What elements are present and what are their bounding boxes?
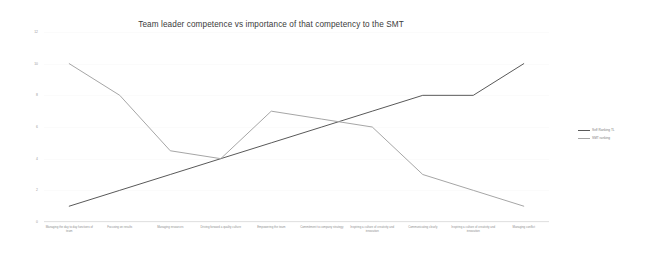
line-chart: Team leader competence vs importance of … <box>0 0 662 257</box>
x-axis-tick-label: Inspiring a culture of creativity and in… <box>347 226 398 252</box>
plot-area: 024681012 <box>44 32 549 222</box>
y-axis-tick-label: 6 <box>36 125 38 129</box>
legend-swatch-icon <box>578 130 590 131</box>
chart-legend: Self Ranking TLSMT ranking <box>578 126 658 142</box>
x-axis-tick-label: Managing the day to day functions of tea… <box>44 226 95 252</box>
x-axis-tick-label: Empowering the team <box>246 226 297 252</box>
y-axis-tick-label: 12 <box>34 30 38 34</box>
legend-label: SMT ranking <box>592 136 610 140</box>
legend-item-1[interactable]: Self Ranking TL <box>578 126 658 134</box>
gridline <box>44 222 549 223</box>
series-container <box>44 32 549 222</box>
legend-label: Self Ranking TL <box>592 128 615 132</box>
x-axis-labels: Managing the day to day functions of tea… <box>44 226 549 252</box>
x-axis-tick-label: Inspiring a culture of creativity and in… <box>448 226 499 252</box>
chart-title: Team leader competence vs importance of … <box>0 20 662 29</box>
x-axis-tick-label: Commitment to company strategy <box>297 226 348 252</box>
x-axis-tick-label: Managing conflict <box>499 226 550 252</box>
x-axis-tick-label: Focusing on results <box>95 226 146 252</box>
y-axis-tick-label: 2 <box>36 188 38 192</box>
y-axis-tick-label: 0 <box>36 220 38 224</box>
y-axis-tick-label: 4 <box>36 157 38 161</box>
x-axis-tick-label: Communicating clearly <box>398 226 449 252</box>
y-axis-tick-label: 10 <box>34 62 38 66</box>
x-axis-tick-label: Driving forward a quality culture <box>196 226 247 252</box>
legend-item-2[interactable]: SMT ranking <box>578 134 658 142</box>
legend-swatch-icon <box>578 138 590 139</box>
y-axis-tick-label: 8 <box>36 93 38 97</box>
x-axis-tick-label: Managing resources <box>145 226 196 252</box>
